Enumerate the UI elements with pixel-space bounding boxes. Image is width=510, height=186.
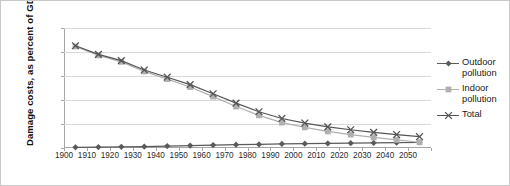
y-axis-title: Damage costs, as percent of GDP [24,0,35,159]
legend-item-outdoor-pollution[interactable]: Outdoorpollution [437,57,509,78]
series-layer [64,28,431,148]
legend-item-label: Outdoorpollution [462,57,497,78]
series-indoor-pollution [73,44,423,146]
square-marker [371,135,377,141]
diamond-marker [445,60,451,66]
series-total [72,42,423,140]
chart-figure: Damage costs, as percent of GDP 0%10%20%… [0,0,510,186]
diamond-marker [118,144,124,150]
diamond-marker [302,141,308,147]
x-marker [445,112,452,119]
x-icon [444,111,453,120]
legend-item-label: Total [462,109,482,120]
legend-label-line2: pollution [462,68,497,79]
legend-item-total[interactable]: Total [437,109,509,121]
diamond-marker [348,140,354,146]
plot-area: 0%10%20%30%40%50% 1900191019201930194019… [64,28,431,148]
square-icon [444,85,453,94]
legend-label-line1: Total [462,109,482,120]
diamond-marker [233,142,239,148]
diamond-marker [210,142,216,148]
x-tick-label: 2050 [391,151,425,160]
diamond-marker [72,144,78,150]
diamond-icon [444,59,453,68]
diamond-marker [141,143,147,149]
legend-item-indoor-pollution[interactable]: Indoorpollution [437,83,509,104]
diamond-marker [371,140,377,146]
legend-label-line1: Outdoor [462,57,497,68]
square-marker [446,87,452,93]
diamond-marker [95,144,101,150]
diamond-marker [164,143,170,149]
square-marker [417,139,423,145]
diamond-marker [256,141,262,147]
diamond-marker [279,141,285,147]
legend-key [437,110,459,121]
square-marker [394,137,400,143]
legend-label-line2: pollution [462,94,497,105]
series-line [75,46,419,137]
x-tick-mark [431,148,432,151]
series-line [75,142,419,147]
legend-key [437,84,459,95]
chart-legend: OutdoorpollutionIndoorpollutionTotal [437,57,509,126]
diamond-marker [325,140,331,146]
legend-label-line1: Indoor [462,83,497,94]
diamond-marker [187,143,193,149]
legend-item-label: Indoorpollution [462,83,497,104]
series-line [75,46,419,142]
legend-key [437,58,459,69]
